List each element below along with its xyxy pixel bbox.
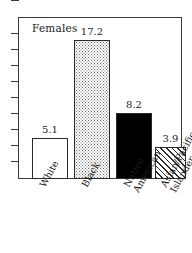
bar-value-asian-pacific-islander: 3.9 [163,134,179,144]
bar-group-white: 5.1 [32,17,68,179]
bar-value-white: 5.1 [42,125,58,135]
y-axis-tick [11,0,19,1]
bar-chart-females: Females 5.1 17.2 8.2 3.9 White Black Nat… [0,0,192,253]
bar-group-black: 17.2 [74,17,110,179]
bar-value-black: 17.2 [81,27,103,37]
bar-value-native-american: 8.2 [126,100,142,110]
bar-black [74,40,110,179]
